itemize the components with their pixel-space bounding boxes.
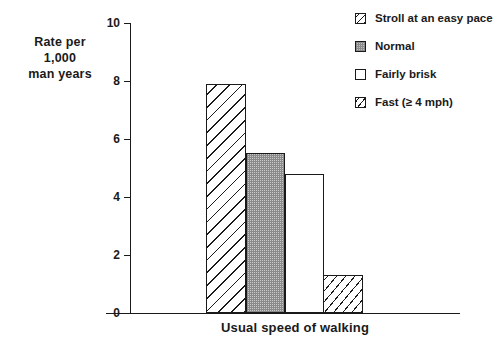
bar-stroll-at-an-easy-pace <box>206 84 246 313</box>
legend-item-normal: Normal <box>355 41 504 52</box>
white-empty-swatch-icon <box>355 69 366 80</box>
legend-item-fast: Fast (≥ 4 mph) <box>355 97 504 108</box>
gray-dotted-swatch-icon <box>355 41 366 52</box>
bar-normal <box>246 153 285 313</box>
y-axis-title-line-1: Rate per <box>8 34 112 50</box>
diagonal-hatch-swatch-icon <box>355 13 366 24</box>
legend-label-normal: Normal <box>375 40 415 53</box>
y-tick-4: 4 <box>124 197 130 198</box>
y-tick-label-10: 10 <box>107 15 120 31</box>
y-tick-label-4: 4 <box>113 189 120 205</box>
y-tick-label-2: 2 <box>113 247 120 263</box>
y-tick-8: 8 <box>124 81 130 82</box>
x-axis-title: Usual speed of walking <box>130 320 460 335</box>
y-axis-line <box>130 23 131 313</box>
y-axis-title: Rate per 1,000 man years <box>8 34 112 82</box>
y-tick-6: 6 <box>124 139 130 140</box>
y-axis-title-line-3: man years <box>8 66 112 82</box>
y-tick-2: 2 <box>124 255 130 256</box>
y-tick-label-8: 8 <box>113 73 120 89</box>
y-tick-label-6: 6 <box>113 131 120 147</box>
y-tick-label-0: 0 <box>113 305 120 321</box>
y-axis-title-line-2: 1,000 <box>8 50 112 66</box>
x-axis-line <box>106 313 460 314</box>
legend-label-fairly-brisk: Fairly brisk <box>375 68 436 81</box>
bar-fast <box>323 275 363 313</box>
legend-item-stroll-at-an-easy-pace: Stroll at an easy pace <box>355 13 504 24</box>
cross-hatch-swatch-icon <box>355 97 366 108</box>
legend-label-fast: Fast (≥ 4 mph) <box>375 96 453 109</box>
y-tick-0: 0 <box>124 313 130 314</box>
legend-item-fairly-brisk: Fairly brisk <box>355 69 504 80</box>
y-tick-10: 10 <box>124 23 130 24</box>
legend-label-stroll-at-an-easy-pace: Stroll at an easy pace <box>375 12 493 25</box>
legend: Stroll at an easy pace Normal Fairly bri… <box>355 13 504 125</box>
bar-fairly-brisk <box>285 174 324 313</box>
